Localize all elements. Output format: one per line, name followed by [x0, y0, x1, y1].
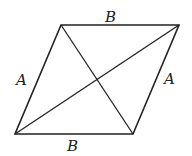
label-top-side: B — [104, 8, 116, 26]
parallelogram-diagram: B A A B — [0, 0, 192, 156]
label-bottom-side: B — [66, 137, 78, 155]
label-right-side: A — [162, 70, 175, 88]
label-left-side: A — [14, 71, 27, 89]
diagonal-bl-tr — [15, 25, 179, 134]
